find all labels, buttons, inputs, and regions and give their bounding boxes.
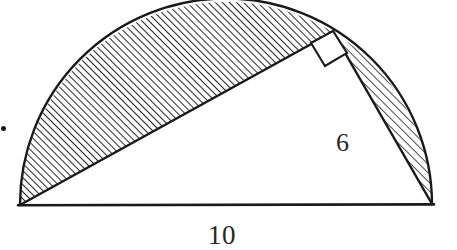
short-leg-label: 6 <box>336 130 349 156</box>
diameter-label: 10 <box>208 222 236 249</box>
stray-dot-mark <box>1 126 6 131</box>
geometry-figure <box>0 0 457 250</box>
diameter-baseline <box>18 204 434 205</box>
